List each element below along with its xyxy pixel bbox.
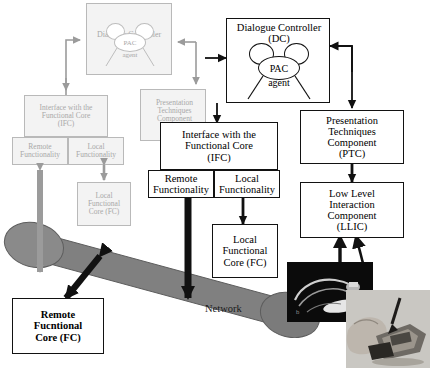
low-level-interaction-component-box[interactable]: Low Level Interaction Component (LLIC) xyxy=(300,182,404,238)
ifc-l2: Functional Core xyxy=(181,140,257,151)
rfc-l2: Fucntional xyxy=(33,320,83,331)
ifc-l3: (IFC) xyxy=(181,152,257,163)
llic-l2: Interaction xyxy=(327,199,378,210)
rfc-l3: Core (FC) xyxy=(33,332,83,343)
remote-functionality-box[interactable]: Remote Functionality xyxy=(148,170,214,198)
hand-holding-pda-photo xyxy=(346,290,430,368)
lf-l1: Local xyxy=(218,173,276,184)
ifc-l1: Interface with the xyxy=(181,129,257,140)
ptc-l2: Techniques xyxy=(325,126,379,137)
figure-canvas: Network Dialogue Controller (DC) PAC age… xyxy=(0,0,432,370)
llic-l4: (LLIC) xyxy=(327,221,378,232)
ptc-l1: Presentation xyxy=(325,115,379,126)
rf-l2: Functionality xyxy=(152,184,210,195)
rf-l1: Remote xyxy=(152,173,210,184)
pac-agent-icon: PAC agent xyxy=(245,43,313,103)
dc-title: Dialogue Controller xyxy=(228,22,330,33)
lfc-l3: Core (FC) xyxy=(222,257,269,268)
local-functionality-box[interactable]: Local Functionality xyxy=(214,170,280,198)
llic-l3: Component xyxy=(327,210,378,221)
ptc-l4: (PTC) xyxy=(325,148,379,159)
llic-l1: Low Level xyxy=(327,188,378,199)
presentation-techniques-component-box[interactable]: Presentation Techniques Component (PTC) xyxy=(300,110,404,164)
ptc-l3: Component xyxy=(325,137,379,148)
local-functional-core-box[interactable]: Local Functional Core (FC) xyxy=(212,224,278,278)
remote-functional-core-box[interactable]: Remote Fucntional Core (FC) xyxy=(12,298,104,354)
pac-sub: agent xyxy=(245,77,313,88)
ifc-box[interactable]: Interface with the Functional Core (IFC) xyxy=(160,122,278,170)
pac-legs-icon xyxy=(245,43,313,103)
lf-l2: Functionality xyxy=(218,184,276,195)
rfc-l1: Remote xyxy=(33,309,83,320)
lfc-l1: Local xyxy=(222,234,269,245)
lfc-l2: Functional xyxy=(222,245,269,256)
